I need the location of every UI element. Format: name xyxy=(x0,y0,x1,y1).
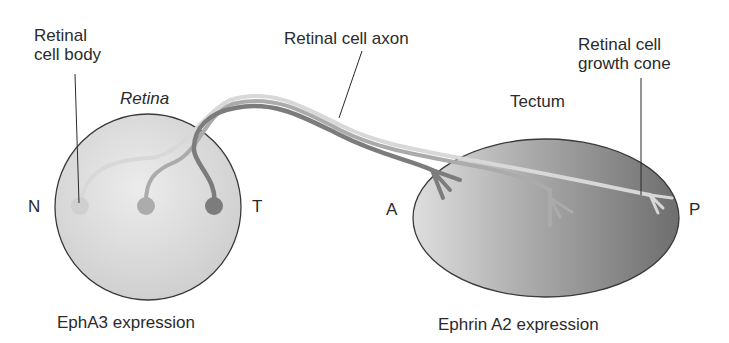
label-tectum: Tectum xyxy=(510,92,565,111)
label-growth-cone: Retinal cell growth cone xyxy=(578,35,671,73)
label-line: Retinal xyxy=(34,26,101,45)
label-retinal-cell-body: Retinal cell body xyxy=(34,26,101,64)
leader-axon xyxy=(339,51,362,118)
caption-tectum: Ephrin A2 expression xyxy=(438,315,599,334)
label-retinal-cell-axon: Retinal cell axon xyxy=(284,29,409,48)
cell-body-middle xyxy=(137,197,155,215)
label-posterior: P xyxy=(689,200,700,219)
cell-body-nasal xyxy=(71,197,89,215)
label-retina: Retina xyxy=(120,89,169,108)
label-temporal: T xyxy=(252,197,262,216)
label-line: Retinal cell xyxy=(578,35,671,54)
label-anterior: A xyxy=(386,200,397,219)
label-line: cell body xyxy=(34,45,101,64)
cell-body-temporal xyxy=(205,197,223,215)
label-line: growth cone xyxy=(578,54,671,73)
label-nasal: N xyxy=(28,197,40,216)
caption-retina: EphA3 expression xyxy=(57,313,195,332)
